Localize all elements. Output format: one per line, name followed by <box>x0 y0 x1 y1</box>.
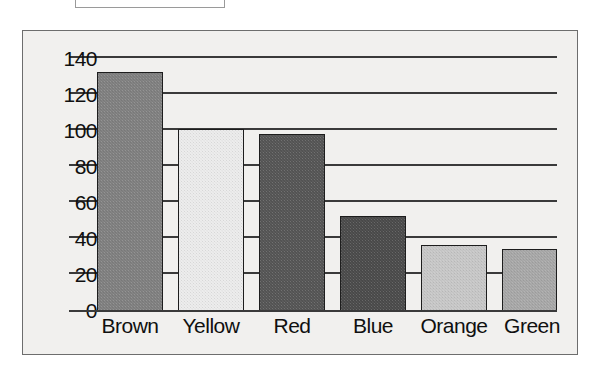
bar-orange[interactable] <box>421 245 487 311</box>
bar-green[interactable] <box>502 249 557 311</box>
bar-yellow[interactable] <box>178 129 244 311</box>
y-axis-label-120: 120 <box>63 84 97 105</box>
x-axis-baseline <box>69 310 557 312</box>
gridline-140 <box>85 56 557 58</box>
x-axis-label-yellow: Yellow <box>178 315 244 336</box>
bar-blue[interactable] <box>340 216 406 311</box>
x-axis-label-green: Green <box>497 315 567 336</box>
bar-texture <box>98 73 162 310</box>
y-axis-label-60: 60 <box>75 192 97 213</box>
y-axis-label-20: 20 <box>75 264 97 285</box>
chart-frame: 140 120 100 80 60 40 20 0 Brown Yellow <box>22 30 578 355</box>
bar-texture <box>422 246 486 310</box>
y-axis-label-80: 80 <box>75 156 97 177</box>
bar-texture <box>179 130 243 310</box>
x-axis-label-blue: Blue <box>340 315 406 336</box>
cut-off-caption-box <box>75 0 225 8</box>
bar-texture <box>341 217 405 310</box>
x-axis-label-orange: Orange <box>415 315 493 336</box>
x-axis-label-red: Red <box>259 315 325 336</box>
bar-texture <box>260 135 324 310</box>
bar-brown[interactable] <box>97 72 163 311</box>
plot-area: 140 120 100 80 60 40 20 0 Brown Yellow <box>23 31 579 356</box>
bar-texture <box>503 250 556 310</box>
bar-red[interactable] <box>259 134 325 311</box>
y-axis-label-100: 100 <box>63 120 97 141</box>
y-axis-label-140: 140 <box>63 48 97 69</box>
x-axis-label-brown: Brown <box>97 315 163 336</box>
y-axis-label-40: 40 <box>75 228 97 249</box>
